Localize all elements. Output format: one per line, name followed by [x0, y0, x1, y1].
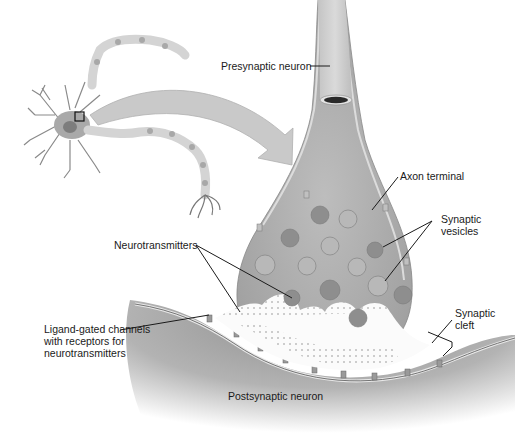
label-neurotransmitters: Neurotransmitters	[114, 239, 197, 251]
label-synaptic-vesicles-line1: Synaptic	[441, 213, 481, 225]
label-synaptic-vesicles-line2: vesicles	[441, 225, 478, 237]
label-ligand-gated-line3: neurotransmitters	[44, 347, 126, 359]
synapse-diagram: Presynaptic neuron Axon terminal Synapti…	[0, 0, 522, 433]
label-synaptic-cleft-line2: cleft	[455, 319, 474, 331]
label-axon-terminal: Axon terminal	[400, 170, 464, 182]
magnification-arrow	[90, 90, 293, 165]
label-presynaptic-neuron: Presynaptic neuron	[221, 60, 311, 72]
whole-neuron-illustration	[24, 37, 220, 218]
label-synaptic-cleft-line1: Synaptic	[455, 307, 495, 319]
label-ligand-gated-line1: Ligand-gated channels	[44, 323, 150, 335]
label-postsynaptic-neuron: Postsynaptic neuron	[228, 390, 323, 402]
label-ligand-gated-line2: with receptors for	[44, 335, 125, 347]
